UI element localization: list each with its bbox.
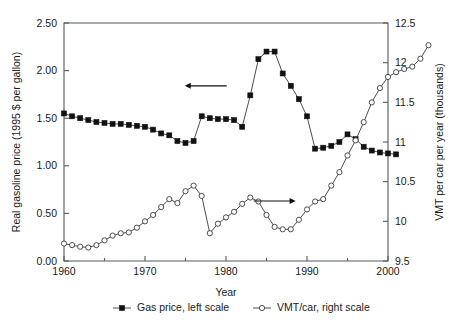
vmt-marker <box>426 43 431 48</box>
vmt-marker <box>167 197 172 202</box>
gas-price-marker <box>337 140 342 145</box>
vmt-marker <box>126 230 131 235</box>
vmt-marker <box>280 227 285 232</box>
gas-price-marker <box>86 118 91 123</box>
gas-price-marker <box>167 133 172 138</box>
vmt-marker <box>313 199 318 204</box>
vmt-marker <box>288 227 293 232</box>
vmt-marker <box>402 66 407 71</box>
vmt-marker <box>142 219 147 224</box>
vmt-marker <box>418 56 423 61</box>
gas-price-marker <box>151 127 156 132</box>
gas-price-marker <box>159 131 164 136</box>
vmt-marker <box>61 241 66 246</box>
y-tick-right-label: 10 <box>395 215 407 227</box>
x-tick-label: 1970 <box>133 265 157 277</box>
gas-price-marker <box>126 122 131 127</box>
vmt-marker <box>70 243 75 248</box>
gas-price-marker <box>386 151 391 156</box>
vmt-marker <box>207 231 212 236</box>
vmt-marker <box>361 120 366 125</box>
legend-open-circle-icon <box>259 305 264 310</box>
vmt-marker <box>296 217 301 222</box>
gas-price-marker <box>191 139 196 144</box>
y-axis-right-title: VMT per car per year (thousands) <box>433 63 445 220</box>
y-tick-left-label: 0.00 <box>37 255 58 267</box>
vmt-marker <box>377 85 382 90</box>
y-tick-left-label: 1.00 <box>37 159 58 171</box>
gas-price-marker <box>296 97 301 102</box>
gas-price-marker <box>369 148 374 153</box>
gas-price-marker <box>232 118 237 123</box>
gasoline-price-vmt-chart: 19601970198019902000 0.000.501.001.502.0… <box>0 0 460 322</box>
gas-price-marker <box>62 111 67 116</box>
gas-price-marker <box>70 114 75 119</box>
y-tick-right-label: 12.5 <box>395 17 416 29</box>
gas-price-marker <box>288 83 293 88</box>
y-tick-left-label: 2.50 <box>37 17 58 29</box>
gas-price-marker <box>240 124 245 129</box>
y-tick-right-label: 10.5 <box>395 175 416 187</box>
vmt-marker <box>199 193 204 198</box>
gas-price-marker <box>224 117 229 122</box>
vmt-marker <box>240 201 245 206</box>
gas-price-marker <box>345 132 350 137</box>
chart-figure: 19601970198019902000 0.000.501.001.502.0… <box>0 0 460 322</box>
vmt-marker <box>134 225 139 230</box>
vmt-marker <box>329 183 334 188</box>
vmt-marker <box>345 153 350 158</box>
gas-price-marker <box>78 116 83 121</box>
gas-price-marker <box>313 146 318 151</box>
x-tick-label: 1990 <box>295 265 319 277</box>
gas-price-marker <box>264 49 269 54</box>
y-tick-right-label: 11.5 <box>395 96 415 108</box>
gas-price-marker <box>329 143 334 148</box>
y-tick-left-label: 2.00 <box>37 64 58 76</box>
vmt-marker <box>223 215 228 220</box>
gas-price-marker <box>175 139 180 144</box>
gas-price-marker <box>143 124 148 129</box>
vmt-marker <box>337 170 342 175</box>
vmt-marker <box>215 221 220 226</box>
vmt-marker <box>118 231 123 236</box>
vmt-marker <box>232 209 237 214</box>
vmt-marker <box>159 204 164 209</box>
gas-price-marker <box>305 114 310 119</box>
vmt-marker <box>321 197 326 202</box>
vmt-marker <box>78 244 83 249</box>
vmt-marker <box>272 224 277 229</box>
gas-price-marker <box>361 144 366 149</box>
x-tick-label: 2000 <box>376 265 400 277</box>
vmt-marker <box>191 183 196 188</box>
vmt-marker <box>248 195 253 200</box>
gas-price-marker <box>377 150 382 155</box>
vmt-marker <box>304 207 309 212</box>
legend-label-1: VMT/car, right scale <box>277 301 370 313</box>
gas-price-marker <box>394 152 399 157</box>
vmt-marker <box>394 70 399 75</box>
gas-price-marker <box>248 93 253 98</box>
gas-price-marker <box>110 121 115 126</box>
y-axis-left-title: Real gasoline price (1995 $ per gallon) <box>10 52 22 232</box>
gas-price-marker <box>215 117 220 122</box>
gas-price-marker <box>134 123 139 128</box>
vmt-marker <box>385 74 390 79</box>
gas-price-marker <box>272 49 277 54</box>
vmt-marker <box>175 200 180 205</box>
gas-price-marker <box>256 57 261 62</box>
vmt-marker <box>410 64 415 69</box>
vmt-marker <box>86 245 91 250</box>
y-tick-left-label: 0.50 <box>37 207 58 219</box>
gas-price-marker <box>207 116 212 121</box>
legend-label-0: Gas price, left scale <box>137 301 229 313</box>
gas-price-marker <box>183 140 188 145</box>
vmt-marker <box>183 189 188 194</box>
gas-price-marker <box>321 145 326 150</box>
vmt-marker <box>264 212 269 217</box>
vmt-marker <box>151 212 156 217</box>
y-tick-left-label: 1.50 <box>37 112 58 124</box>
vmt-marker <box>110 233 115 238</box>
vmt-marker <box>94 243 99 248</box>
x-tick-label: 1960 <box>52 265 76 277</box>
gas-price-marker <box>118 121 123 126</box>
